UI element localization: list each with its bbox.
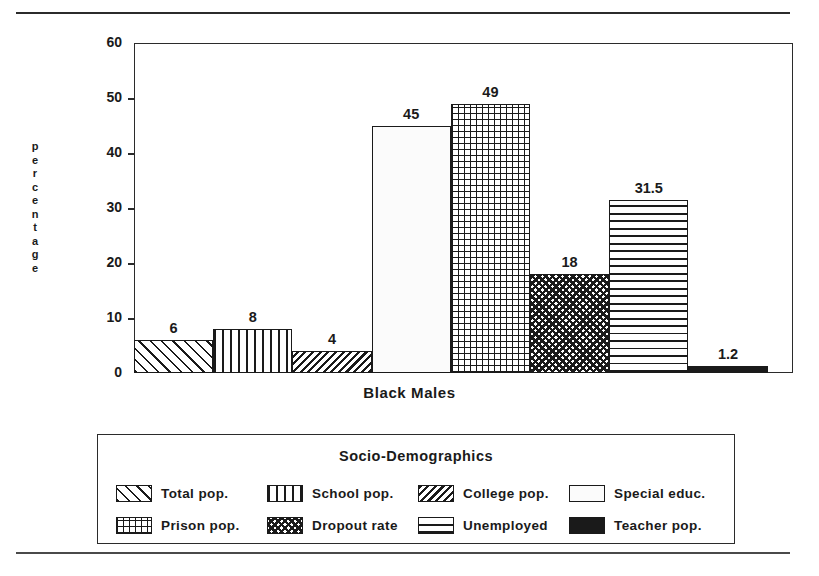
- bar-value-label: 31.5: [609, 180, 688, 196]
- bar-value-label: 49: [451, 84, 530, 100]
- bar-value-label: 6: [134, 320, 213, 336]
- legend-item-label: Teacher pop.: [614, 518, 702, 533]
- legend-item[interactable]: Prison pop.: [116, 517, 267, 534]
- y-axis-tick-label: 50: [68, 89, 122, 105]
- legend-swatch-icon: [116, 517, 152, 534]
- legend-item[interactable]: School pop.: [267, 485, 418, 502]
- legend-item[interactable]: Special educ.: [569, 485, 720, 502]
- bar[interactable]: [372, 126, 451, 374]
- legend-item[interactable]: Teacher pop.: [569, 517, 720, 534]
- y-axis-title-letter: p: [28, 140, 42, 154]
- bar[interactable]: [213, 329, 292, 373]
- chart-legend: Socio-Demographics Total pop.School pop.…: [97, 434, 735, 544]
- legend-swatch-icon: [569, 517, 605, 534]
- legend-item-label: Total pop.: [161, 486, 229, 501]
- y-axis-title-letter: t: [28, 221, 42, 235]
- chart-plot-area: 68445491831.51.2: [134, 43, 793, 373]
- legend-rows: Total pop.School pop.College pop.Special…: [116, 477, 720, 541]
- legend-item[interactable]: Dropout rate: [267, 517, 418, 534]
- legend-item-label: School pop.: [312, 486, 394, 501]
- bar[interactable]: [530, 274, 609, 373]
- legend-swatch-icon: [267, 485, 303, 502]
- y-axis-tick-label: 0: [68, 364, 122, 380]
- legend-row: Total pop.School pop.College pop.Special…: [116, 477, 720, 509]
- legend-item[interactable]: Total pop.: [116, 485, 267, 502]
- legend-swatch-icon: [418, 517, 454, 534]
- bar[interactable]: [292, 351, 371, 373]
- legend-title: Socio-Demographics: [98, 448, 734, 464]
- bar[interactable]: [451, 104, 530, 374]
- y-axis-tick-label: 40: [68, 144, 122, 160]
- y-axis-title-letter: r: [28, 167, 42, 181]
- y-axis-tick-label: 10: [68, 309, 122, 325]
- legend-item-label: Special educ.: [614, 486, 706, 501]
- y-axis-tick-label: 20: [68, 254, 122, 270]
- legend-item[interactable]: College pop.: [418, 485, 569, 502]
- legend-swatch-icon: [569, 485, 605, 502]
- y-axis-tick-label: 60: [68, 34, 122, 50]
- bar[interactable]: [134, 340, 213, 373]
- x-axis-label: Black Males: [0, 384, 819, 401]
- y-axis-title-letter: c: [28, 181, 42, 195]
- top-horizontal-rule: [16, 12, 790, 14]
- legend-swatch-icon: [418, 485, 454, 502]
- bar-value-label: 1.2: [688, 346, 767, 362]
- bar-value-label: 45: [372, 106, 451, 122]
- y-axis-title-letter: e: [28, 262, 42, 276]
- bar[interactable]: [609, 200, 688, 373]
- bar-value-label: 18: [530, 254, 609, 270]
- y-axis-title-letter: e: [28, 194, 42, 208]
- legend-row: Prison pop.Dropout rateUnemployedTeacher…: [116, 509, 720, 541]
- y-axis-tick-label: 30: [68, 199, 122, 215]
- legend-item[interactable]: Unemployed: [418, 517, 569, 534]
- y-axis-title-letter: n: [28, 208, 42, 222]
- bar[interactable]: [688, 366, 767, 373]
- y-axis-title: percentage: [28, 140, 42, 275]
- y-axis-title-letter: g: [28, 248, 42, 262]
- legend-swatch-icon: [116, 485, 152, 502]
- bar-value-label: 8: [213, 309, 292, 325]
- bar-value-label: 4: [292, 331, 371, 347]
- legend-item-label: Prison pop.: [161, 518, 240, 533]
- legend-item-label: College pop.: [463, 486, 549, 501]
- y-axis-title-letter: a: [28, 235, 42, 249]
- y-axis-title-letter: e: [28, 154, 42, 168]
- bottom-horizontal-rule: [16, 552, 790, 554]
- legend-item-label: Unemployed: [463, 518, 548, 533]
- legend-swatch-icon: [267, 517, 303, 534]
- legend-item-label: Dropout rate: [312, 518, 398, 533]
